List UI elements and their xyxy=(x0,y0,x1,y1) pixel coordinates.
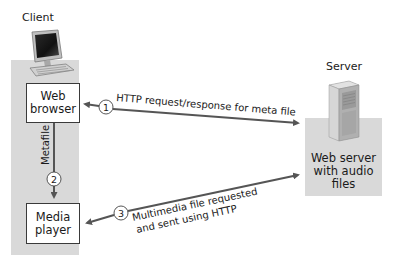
step-1-number: 1 xyxy=(103,102,109,113)
metafile-label: Metafile xyxy=(40,125,51,165)
arrow-step-3: 3 Multimedia file requested and sent usi… xyxy=(87,175,298,235)
step-3-number: 3 xyxy=(118,208,124,219)
step-1-label: HTTP request/response for meta file xyxy=(116,92,296,117)
arrow-step-2: 2 Metafile xyxy=(40,123,61,197)
arrow-step-1: 1 HTTP request/response for meta file xyxy=(85,92,298,123)
step-2-number: 2 xyxy=(51,174,57,185)
arrows-layer: 1 HTTP request/response for meta file 2 … xyxy=(0,0,398,264)
